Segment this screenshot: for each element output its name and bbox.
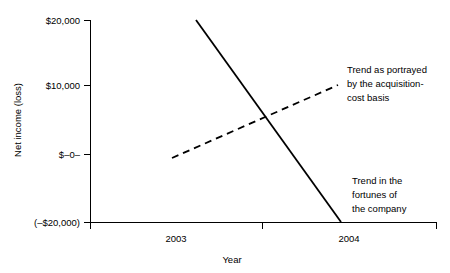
annotation-acquisition-line-3: cost basis (347, 92, 389, 103)
y-axis-title: Net income (loss) (12, 83, 23, 157)
annotation-fortunes-line-3: the company (352, 203, 407, 214)
net-income-trend-chart: $20,000 $10,000 $–0– (–$20,000) 2003 200… (0, 0, 450, 273)
annotation-acquisition-line-1: Trend as portrayed (347, 64, 427, 75)
annotation-fortunes-line-1: Trend in the (352, 175, 402, 186)
chart-background (0, 0, 450, 273)
y-tick-label-0: $–0– (59, 149, 81, 160)
chart-page: $20,000 $10,000 $–0– (–$20,000) 2003 200… (0, 0, 450, 273)
x-tick-label-2004: 2004 (338, 233, 359, 244)
y-tick-label-10000: $10,000 (46, 80, 80, 91)
x-tick-label-2003: 2003 (165, 233, 186, 244)
y-tick-label-20000: $20,000 (46, 15, 80, 26)
y-tick-label-neg20000: (–$20,000) (34, 217, 80, 228)
annotation-fortunes-line-2: fortunes of (352, 189, 397, 200)
x-axis-title: Year (222, 254, 241, 265)
annotation-acquisition-line-2: by the acquisition- (347, 78, 424, 89)
